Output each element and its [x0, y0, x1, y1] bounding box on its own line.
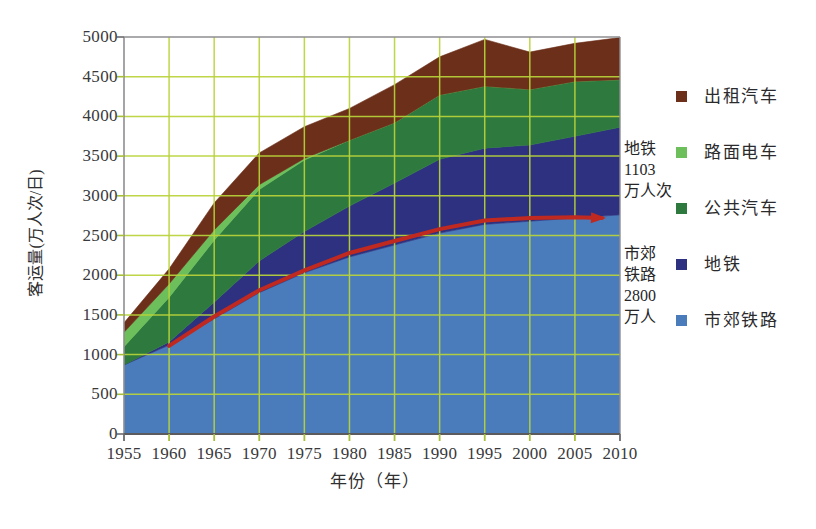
annotation-subway-line-1: 地铁: [624, 138, 672, 159]
legend-label: 出租汽车: [704, 87, 778, 106]
x-axis-title: 年份（年）: [330, 472, 420, 492]
legend-item[interactable]: 路面电车: [676, 124, 814, 180]
annotation-suburban-line-2: 铁路: [624, 264, 656, 285]
y-axis-tick-label: 4000: [56, 107, 118, 124]
legend-swatch-icon: [676, 203, 687, 214]
annotation-subway-line-2: 1103: [624, 159, 672, 180]
legend-swatch-icon: [676, 147, 687, 158]
annotation-suburban-line-1: 市郊: [624, 243, 656, 264]
y-axis-tick-label: 2500: [56, 227, 118, 244]
y-axis-tick-label: 2000: [56, 266, 118, 283]
x-axis-tick-labels: 1955196019651970197519801985199019952000…: [0, 444, 816, 470]
legend-item[interactable]: 市郊铁路: [676, 292, 814, 348]
legend-swatch-icon: [676, 259, 687, 270]
y-axis-tick-label: 0: [56, 425, 118, 442]
y-axis-tick-label: 5000: [56, 28, 118, 45]
legend-label: 公共汽车: [704, 199, 778, 218]
y-axis-tick-label: 500: [56, 385, 118, 402]
legend-label: 市郊铁路: [704, 311, 778, 330]
chart-legend: 出租汽车路面电车公共汽车地铁市郊铁路: [676, 68, 814, 348]
annotation-subway-line-3: 万人次: [624, 180, 672, 201]
legend-label: 路面电车: [704, 143, 778, 162]
legend-item[interactable]: 公共汽车: [676, 180, 814, 236]
y-axis-tick-label: 1500: [56, 306, 118, 323]
legend-swatch-icon: [676, 315, 687, 326]
annotation-suburban-rail: 市郊 铁路 2800 万人: [624, 243, 656, 327]
chart-container: 5000450040003500300025002000150010005000…: [0, 0, 816, 529]
x-axis-tick-label: 2010: [594, 444, 646, 464]
legend-item[interactable]: 出租汽车: [676, 68, 814, 124]
annotation-suburban-line-3: 2800: [624, 285, 656, 306]
y-axis-tick-label: 3000: [56, 187, 118, 204]
y-axis-tick-label: 1000: [56, 346, 118, 363]
annotation-suburban-line-4: 万人: [624, 306, 656, 327]
y-axis-tick-label: 3500: [56, 147, 118, 164]
annotation-subway: 地铁 1103 万人次: [624, 138, 672, 201]
y-axis-title: 客运量(万人次/日): [27, 123, 45, 343]
legend-label: 地铁: [704, 255, 741, 274]
y-axis-tick-label: 4500: [56, 68, 118, 85]
legend-item[interactable]: 地铁: [676, 236, 814, 292]
legend-swatch-icon: [676, 91, 687, 102]
bottom-caption: [186, 512, 486, 529]
